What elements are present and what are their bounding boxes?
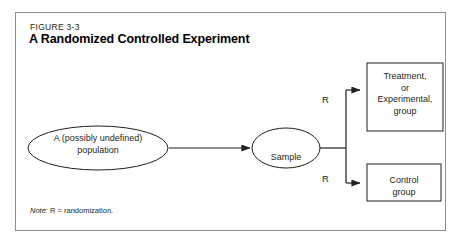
randomization-label-treatment: R: [322, 94, 329, 105]
figure-note-lead: Note:: [30, 206, 48, 215]
figure-note-text: R = randomization.: [48, 206, 113, 215]
flow-diagram: [16, 13, 447, 232]
sample-ellipse: [252, 128, 320, 168]
randomization-label-control: R: [322, 173, 329, 184]
control-group-box: [367, 164, 441, 201]
population-ellipse: [28, 126, 168, 170]
figure-note: Note: R = randomization.: [30, 206, 113, 215]
treatment-group-box: [367, 63, 443, 131]
figure-panel: FIGURE 3-3 A Randomized Controlled Exper…: [15, 12, 446, 231]
